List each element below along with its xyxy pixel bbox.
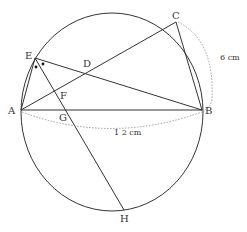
- segment-ae: [21, 58, 35, 110]
- segment-eb: [35, 58, 202, 110]
- segment-ac: [21, 22, 176, 110]
- point-label-e: E: [25, 50, 32, 61]
- point-label-h: H: [120, 213, 129, 224]
- length-label-bc: 6 cm: [220, 53, 240, 62]
- point-label-d: D: [83, 58, 91, 69]
- measure-arc-ab: [22, 112, 202, 129]
- angle-mark-dot: [35, 66, 38, 69]
- measure-arc-bc: [178, 22, 212, 111]
- angle-mark-dot: [42, 63, 45, 66]
- segment-bc: [176, 22, 202, 110]
- geometry-diagram: A B C D E F G H 1 2 cm 6 cm: [0, 0, 247, 232]
- length-label-ab: 1 2 cm: [114, 128, 142, 137]
- point-label-b: B: [205, 105, 212, 116]
- point-label-c: C: [172, 10, 180, 21]
- segment-eh: [35, 58, 124, 210]
- point-label-g: G: [59, 112, 67, 123]
- point-label-a: A: [7, 105, 16, 116]
- point-label-f: F: [60, 90, 67, 101]
- circle: [21, 13, 203, 211]
